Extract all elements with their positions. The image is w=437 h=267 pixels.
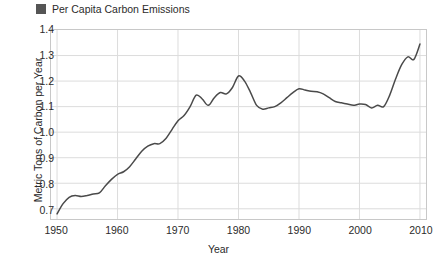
x-axis-title: Year [0,243,437,255]
chart-legend: Per Capita Carbon Emissions [36,1,190,17]
legend-label: Per Capita Carbon Emissions [52,4,190,15]
y-axis-title: Metric Tons of Carbon per Year [32,30,44,230]
plot-area [50,29,427,220]
x-axis-tick-label: 1980 [217,224,261,236]
x-axis-tick-label: 2010 [399,224,437,236]
x-axis-tick-label: 1970 [156,224,200,236]
legend-swatch-icon [36,4,46,14]
x-axis-tick-label: 2000 [338,224,382,236]
data-series-line [51,30,426,219]
x-axis-tick-label: 1990 [277,224,321,236]
chart-container: Per Capita Carbon Emissions 0.70.80.91.0… [0,0,437,267]
x-axis-tick-label: 1960 [95,224,139,236]
